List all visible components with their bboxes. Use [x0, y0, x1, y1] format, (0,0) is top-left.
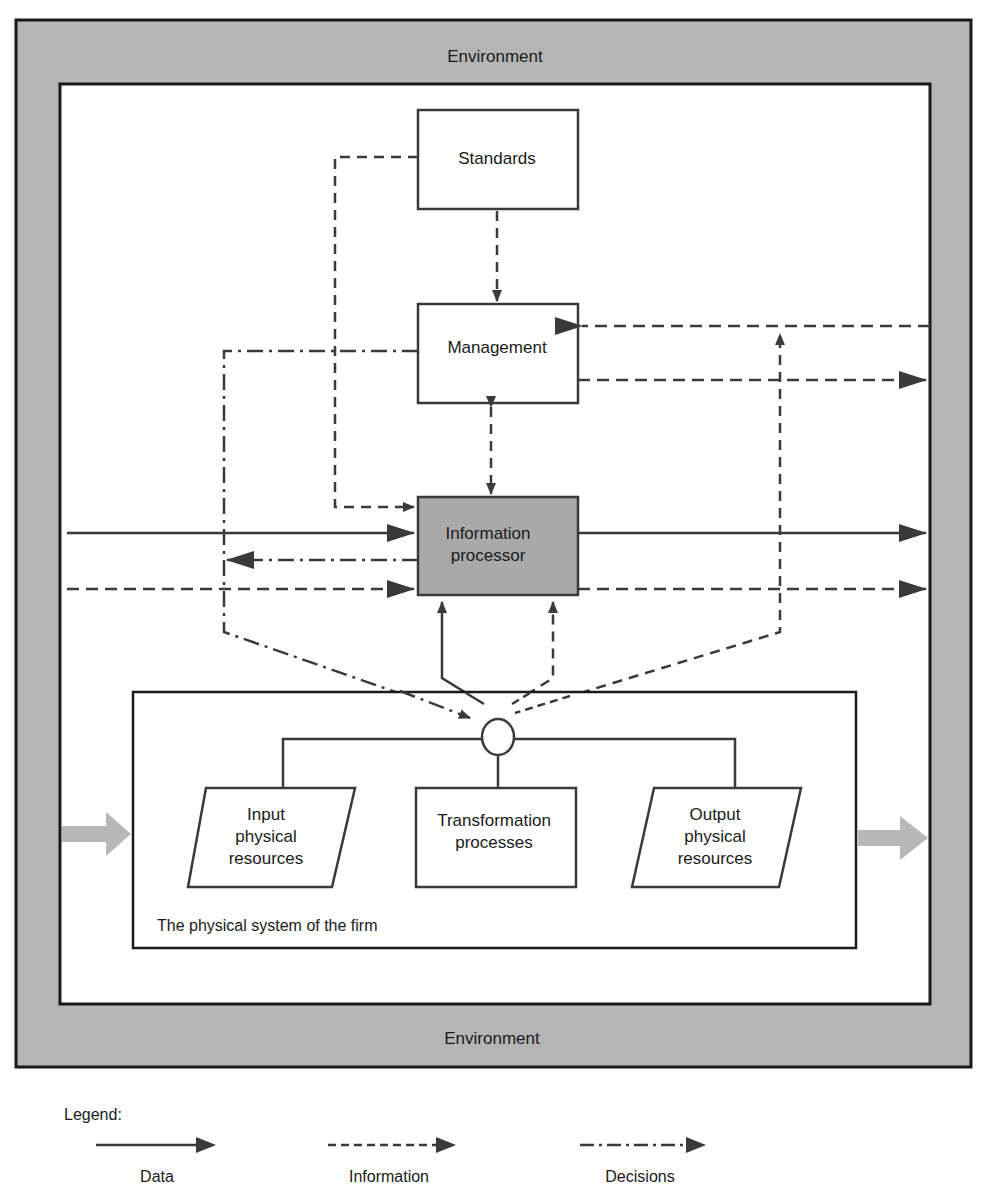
environment-bottom-label: Environment — [444, 1029, 540, 1048]
information-processor-node: Information processor — [418, 497, 578, 595]
output-line2: physical — [684, 827, 745, 846]
input-line3: resources — [229, 849, 304, 868]
input-resources-node: Input physical resources — [188, 788, 355, 887]
legend-title: Legend: — [64, 1106, 122, 1123]
legend-information-label: Information — [349, 1168, 429, 1185]
junction-circle — [482, 719, 514, 755]
transformation-node: Transformation processes — [416, 788, 576, 887]
legend-item-data: Data — [96, 1137, 216, 1185]
transformation-line1: Transformation — [437, 811, 551, 830]
legend-data-label: Data — [140, 1168, 174, 1185]
standards-label: Standards — [458, 149, 536, 168]
standards-node: Standards — [418, 110, 578, 209]
output-resources-node: Output physical resources — [632, 788, 801, 887]
firm-system-diagram: Environment Environment Standards Manage… — [0, 0, 982, 1192]
physical-system-label: The physical system of the firm — [157, 917, 378, 934]
management-label: Management — [447, 338, 547, 357]
environment-top-label: Environment — [447, 47, 543, 66]
input-line2: physical — [235, 827, 296, 846]
info-processor-line1: Information — [445, 524, 530, 543]
legend-decisions-label: Decisions — [605, 1168, 674, 1185]
output-line1: Output — [689, 805, 740, 824]
input-line1: Input — [247, 805, 285, 824]
info-processor-line2: processor — [451, 546, 526, 565]
management-node: Management — [418, 304, 578, 403]
transformation-line2: processes — [455, 833, 532, 852]
output-line3: resources — [678, 849, 753, 868]
legend-item-information: Information — [328, 1137, 456, 1185]
legend-item-decisions: Decisions — [580, 1137, 706, 1185]
